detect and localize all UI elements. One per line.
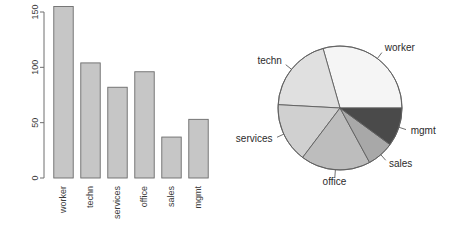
pie-label-leader-line: [377, 53, 381, 59]
pie-slice-label: techn: [257, 55, 281, 66]
pie-label-leader-line: [277, 134, 284, 137]
pie-label-leader-line: [399, 127, 406, 129]
y-axis-tick-label: 0: [30, 175, 40, 180]
y-axis-tick-label: 100: [30, 60, 40, 75]
bar-category-label: services: [112, 186, 122, 220]
bar-chart: 050100150workertechnservicesofficesalesm…: [0, 0, 230, 237]
bar-category-label: techn: [85, 186, 95, 208]
bar-plot-area: 050100150workertechnservicesofficesalesm…: [30, 4, 208, 219]
bar: [54, 6, 73, 178]
bar-category-label: sales: [166, 186, 176, 208]
pie-chart: workertechnservicesofficesalesmgmt: [229, 0, 459, 237]
bar-category-label: worker: [58, 186, 68, 214]
bar: [189, 119, 208, 178]
pie-slice-label: services: [236, 133, 273, 144]
figure-canvas: 050100150workertechnservicesofficesalesm…: [0, 0, 459, 237]
bar: [81, 63, 100, 178]
bar-chart-panel: 050100150workertechnservicesofficesalesm…: [0, 0, 230, 237]
bar-category-label: mgmt: [193, 186, 203, 209]
pie-label-leader-line: [286, 65, 292, 70]
bar: [108, 87, 127, 178]
pie-slice-label: mgmt: [411, 125, 436, 136]
y-axis-tick-label: 150: [30, 4, 40, 19]
pie-chart-panel: workertechnservicesofficesalesmgmt: [229, 0, 459, 237]
bar: [162, 137, 181, 178]
pie-slice-label: worker: [384, 42, 416, 53]
pie-plot-area: workertechnservicesofficesalesmgmt: [236, 42, 436, 187]
bar-category-label: office: [139, 186, 149, 207]
pie-slice-label: sales: [389, 158, 412, 169]
pie-slice-label: office: [323, 176, 347, 187]
y-axis-tick-label: 50: [30, 118, 40, 128]
bar: [135, 72, 154, 178]
pie-label-leader-line: [381, 155, 386, 161]
